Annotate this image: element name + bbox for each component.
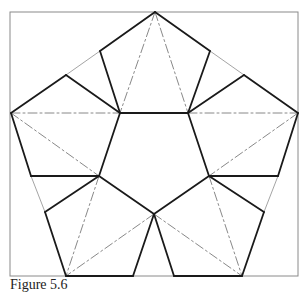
dashed-line <box>66 214 154 276</box>
figure-caption: Figure 5.6 <box>10 278 68 292</box>
thick-line <box>242 212 264 276</box>
thick-line <box>99 113 120 176</box>
thick-line <box>11 113 31 176</box>
thin-line <box>210 51 244 75</box>
thin-construction-lines <box>31 51 278 212</box>
dashed-line <box>209 176 242 276</box>
thin-line <box>31 176 45 212</box>
dashed-line <box>209 113 298 176</box>
thick-line <box>188 113 209 176</box>
thick-line <box>11 75 66 113</box>
thick-line <box>45 212 66 276</box>
thick-line <box>154 176 209 214</box>
dashed-line <box>154 214 242 276</box>
thick-line <box>133 214 154 276</box>
thick-line <box>188 75 244 113</box>
thick-line <box>154 214 174 276</box>
thick-line <box>244 75 298 113</box>
thick-line <box>100 51 120 113</box>
thick-line <box>155 12 210 51</box>
thick-line <box>45 176 99 212</box>
thick-line <box>278 113 298 176</box>
dashed-line <box>155 12 188 113</box>
thick-line <box>99 176 154 214</box>
dashed-line <box>66 176 99 276</box>
dashed-line <box>120 12 155 113</box>
thick-line <box>188 51 210 113</box>
thick-line <box>100 12 155 51</box>
thick-line <box>209 176 264 212</box>
dashed-line <box>11 113 99 176</box>
thin-line <box>264 176 278 212</box>
thin-line <box>66 51 100 75</box>
thick-line <box>66 75 120 113</box>
